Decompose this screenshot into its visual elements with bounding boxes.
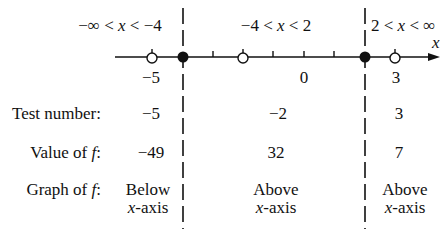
- graph-of-f-3: Above x-axis: [382, 181, 427, 217]
- test-number-1: −5: [142, 105, 160, 123]
- filled-point-2: [360, 52, 371, 63]
- graph-of-f-2: Above x-axis: [253, 181, 298, 217]
- test-number-2: −2: [269, 105, 287, 123]
- interval-label-2: −4 < x < 2: [241, 17, 311, 35]
- axis-arrow-icon: [428, 53, 440, 61]
- value-of-f-2: 32: [268, 144, 285, 162]
- tick-label-3: 3: [392, 69, 401, 87]
- graph-of-f-1: Below x-axis: [126, 181, 170, 217]
- interval-label-3: 2 < x < ∞: [371, 17, 435, 35]
- filled-point-minus4: [178, 52, 189, 63]
- test-number-3: 3: [395, 105, 404, 123]
- tick-label-minus5: −5: [142, 69, 160, 87]
- row-label-test-number: Test number:: [12, 105, 101, 123]
- axis-variable-label: x: [432, 34, 440, 52]
- open-point-minus5: [147, 49, 157, 63]
- open-point-minus2: [238, 49, 248, 63]
- row-label-graph-of-f: Graph of f:: [26, 181, 101, 199]
- tick-label-0: 0: [300, 69, 309, 87]
- value-of-f-3: 7: [395, 144, 404, 162]
- open-point-3: [390, 49, 400, 63]
- row-label-value-of-f: Value of f:: [30, 144, 101, 162]
- interval-label-1: −∞ < x < −4: [78, 17, 162, 35]
- value-of-f-1: −49: [138, 144, 165, 162]
